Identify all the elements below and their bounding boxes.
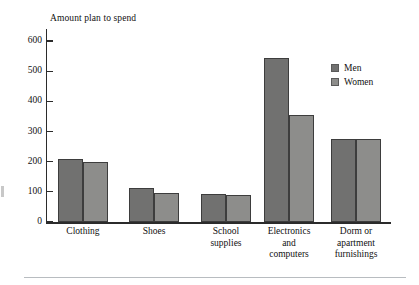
category-label-0: Clothing bbox=[45, 226, 121, 238]
category-label-line: Electronics bbox=[268, 226, 311, 236]
legend-label-men: Men bbox=[344, 63, 361, 73]
legend-swatch-women-icon bbox=[331, 78, 339, 86]
bar-women-2 bbox=[226, 195, 251, 222]
bar-women-4 bbox=[356, 139, 381, 222]
category-label-line: apartment bbox=[337, 238, 375, 248]
category-label-3: Electronicsandcomputers bbox=[251, 226, 327, 261]
category-label-line: and bbox=[282, 238, 296, 248]
bar-women-3 bbox=[289, 115, 314, 222]
legend-label-women: Women bbox=[344, 77, 373, 87]
category-label-line: Shoes bbox=[143, 226, 166, 236]
bar-men-3 bbox=[264, 58, 289, 222]
legend-item-women: Women bbox=[331, 75, 373, 89]
category-label-line: supplies bbox=[210, 238, 241, 248]
bar-men-4 bbox=[331, 139, 356, 222]
category-label-4: Dorm orapartmentfurnishings bbox=[318, 226, 394, 261]
bar-chart-figure: Amount plan to spend 0100200300400500600… bbox=[0, 0, 419, 285]
category-label-line: School bbox=[213, 226, 239, 236]
category-label-line: furnishings bbox=[335, 249, 378, 259]
bar-women-0 bbox=[83, 162, 108, 222]
bar-women-1 bbox=[154, 193, 179, 222]
legend-item-men: Men bbox=[331, 61, 373, 75]
page-separator-rule bbox=[24, 277, 406, 278]
chart-legend: Men Women bbox=[331, 61, 373, 89]
category-label-1: Shoes bbox=[116, 226, 192, 238]
page-edge-mark bbox=[1, 186, 4, 197]
bar-men-0 bbox=[58, 159, 83, 222]
bar-men-2 bbox=[201, 194, 226, 222]
category-label-line: computers bbox=[269, 249, 309, 259]
legend-swatch-men-icon bbox=[331, 64, 339, 72]
bar-men-1 bbox=[129, 188, 154, 222]
category-label-line: Dorm or bbox=[340, 226, 372, 236]
category-label-line: Clothing bbox=[66, 226, 99, 236]
